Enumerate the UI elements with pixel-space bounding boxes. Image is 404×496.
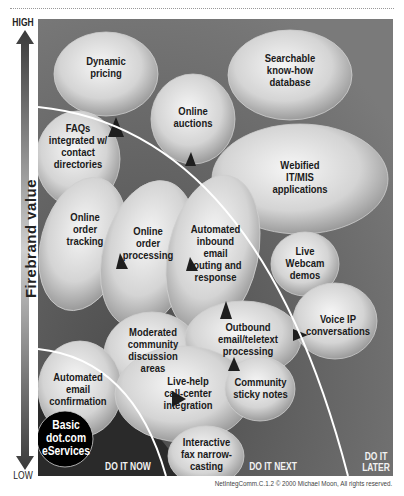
label-live-webcam: Live Webcam demos [275, 245, 335, 281]
zone-do-it-now: DO IT NOW [94, 461, 162, 472]
diagram-panel: Dynamic pricing Searchable know-how data… [38, 19, 393, 476]
label-basic-eservices: Basic dot.com eServices [38, 419, 96, 458]
axis-high-label: HIGH [12, 17, 34, 28]
label-outbound-email: Outbound email/teletext processing [205, 321, 291, 357]
axis-low-label: LOW [12, 470, 34, 481]
label-faqs: FAQs integrated w/ contact directories [39, 122, 116, 170]
label-moderated-community: Moderated community discussion areas [114, 326, 191, 374]
label-interactive-fax: Interactive fax narrow- casting [170, 436, 243, 472]
label-webified: Webified IT/MIS applications [261, 159, 338, 195]
label-online-auctions: Online auctions [163, 105, 223, 129]
y-axis-title: Firebrand value [22, 169, 39, 309]
label-order-tracking: Online order tracking [55, 211, 115, 247]
label-sticky-notes: Community sticky notes [224, 376, 297, 400]
copyright-footer: NetIntegComm.C.1.2 © 2000 Michael Moon, … [214, 480, 392, 487]
label-live-help: Live-help call-center integration [149, 375, 226, 411]
label-order-processing: Online order processing [114, 225, 183, 261]
label-searchable-database: Searchable know-how database [247, 52, 333, 88]
label-voice-ip: Voice IP conversations [295, 313, 381, 337]
label-email-confirmation: Automated email confirmation [44, 371, 113, 407]
label-automated-inbound: Automated inbound email routing and resp… [179, 223, 252, 283]
zone-do-it-next: DO IT NEXT [239, 461, 307, 472]
top-dotted-rule [10, 8, 394, 9]
zone-do-it-later: DO IT LATER [359, 451, 393, 473]
label-dynamic-pricing: Dynamic pricing [76, 55, 136, 79]
